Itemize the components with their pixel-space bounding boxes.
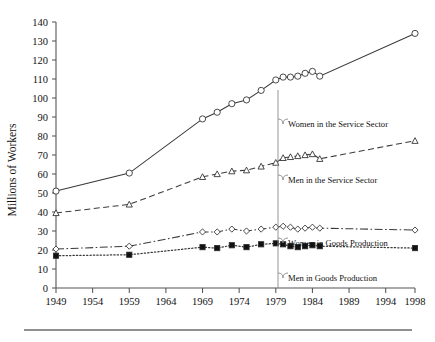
line-chart-canvas: Millions of Workers 01020304050607080901… — [0, 0, 435, 342]
data-point-marker — [412, 227, 418, 233]
data-point-marker — [412, 30, 418, 36]
data-point-marker — [317, 225, 323, 231]
y-axis-tick-label: 20 — [38, 245, 49, 256]
data-point-marker — [243, 228, 249, 234]
data-point-marker — [273, 77, 279, 83]
data-point-marker — [53, 253, 58, 258]
data-point-marker — [126, 170, 132, 176]
data-point-marker — [229, 101, 235, 107]
data-point-marker — [258, 226, 264, 232]
data-point-marker — [229, 243, 234, 248]
data-point-marker — [412, 246, 417, 251]
y-axis-tick-label: 100 — [32, 93, 48, 104]
data-point-marker — [309, 68, 315, 74]
series-annotation-label: Women in Goods Production — [288, 238, 389, 248]
y-axis-title-text: Millions of Workers — [6, 123, 18, 216]
data-point-marker — [302, 225, 308, 231]
y-axis-tick-label: 0 — [43, 283, 48, 294]
y-axis: 0102030405060708090100110120130140 — [32, 17, 56, 294]
data-point-marker — [229, 226, 235, 232]
data-point-marker — [309, 151, 315, 157]
y-axis-title: Millions of Workers — [6, 123, 18, 216]
data-point-marker — [215, 246, 220, 251]
data-point-marker — [199, 116, 205, 122]
data-point-marker — [214, 171, 220, 177]
y-axis-tick-label: 80 — [38, 131, 49, 142]
series-0 — [53, 30, 418, 194]
x-axis-tick-label: 1949 — [46, 296, 67, 307]
data-series-group — [53, 30, 418, 258]
data-point-marker — [309, 224, 315, 230]
data-point-marker — [200, 245, 205, 250]
data-point-marker — [287, 224, 293, 230]
data-point-marker — [258, 87, 264, 93]
annotation-leader-hook — [278, 175, 288, 180]
series-annotation-label: Men in the Service Sector — [288, 175, 377, 185]
series-annotation-label: Men in Goods Production — [288, 273, 378, 283]
data-point-marker — [126, 243, 132, 249]
data-point-marker — [280, 223, 286, 229]
annotation-leader-hook — [278, 119, 288, 124]
x-axis-tick-label: 1964 — [155, 296, 177, 307]
data-point-marker — [127, 252, 132, 257]
x-axis-tick-label: 1974 — [229, 296, 251, 307]
series-annotation-label: Women in the Service Sector — [288, 119, 388, 129]
y-axis-tick-label: 120 — [32, 55, 48, 66]
y-axis-tick-label: 70 — [38, 150, 49, 161]
y-axis-tick-label: 140 — [32, 17, 48, 28]
y-axis-tick-label: 60 — [38, 169, 49, 180]
data-point-marker — [287, 74, 293, 80]
data-point-marker — [412, 138, 418, 144]
x-axis-tick-label: 1989 — [339, 296, 360, 307]
data-point-marker — [53, 246, 59, 252]
x-axis-tick-label: 1998 — [405, 296, 426, 307]
x-axis-tick-label: 1984 — [302, 296, 324, 307]
x-axis-tick-label: 1994 — [375, 296, 397, 307]
chart-figure: Millions of Workers 01020304050607080901… — [0, 0, 435, 342]
data-point-marker — [295, 73, 301, 79]
data-point-marker — [295, 226, 301, 232]
data-point-marker — [259, 242, 264, 247]
data-point-marker — [214, 109, 220, 115]
annotation-leader-hook — [278, 238, 288, 243]
y-axis-tick-label: 130 — [32, 36, 48, 47]
data-point-marker — [302, 70, 308, 76]
y-axis-tick-label: 10 — [38, 264, 49, 275]
data-point-marker — [317, 73, 323, 79]
y-axis-tick-label: 30 — [38, 226, 49, 237]
annotation-leader-hook — [278, 273, 288, 278]
x-axis-tick-label: 1954 — [82, 296, 104, 307]
data-point-marker — [280, 74, 286, 80]
x-axis-tick-label: 1969 — [192, 296, 213, 307]
x-axis: 1949195419591964196919741979198419891994… — [46, 288, 426, 307]
series-polyline — [56, 33, 415, 191]
series-annotations: Women in the Service SectorMen in the Se… — [278, 90, 389, 288]
data-point-marker — [214, 229, 220, 235]
y-axis-tick-label: 110 — [33, 74, 48, 85]
x-axis-tick-label: 1959 — [119, 296, 140, 307]
data-point-marker — [199, 229, 205, 235]
data-point-marker — [244, 245, 249, 250]
y-axis-tick-label: 90 — [38, 112, 49, 123]
y-axis-tick-label: 50 — [38, 188, 49, 199]
x-axis-tick-label: 1979 — [265, 296, 286, 307]
data-point-marker — [243, 97, 249, 103]
data-point-marker — [53, 188, 59, 194]
y-axis-tick-label: 40 — [38, 207, 49, 218]
